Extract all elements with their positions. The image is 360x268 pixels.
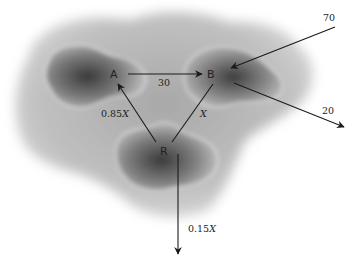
flow-label-r-a-coeff: 0.85 — [101, 108, 122, 119]
node-b-label: B — [207, 68, 215, 81]
flow-label-b-r: X — [199, 108, 208, 119]
flow-label-in-b: 70 — [323, 12, 335, 23]
node-r-label: R — [160, 145, 168, 158]
flow-label-r-out-var: X — [208, 223, 217, 234]
flow-diagram: A B R 30 70 20 0.85X X 0.15X — [0, 0, 360, 268]
flow-label-r-a: 0.85X — [101, 108, 130, 119]
flow-label-a-b: 30 — [158, 77, 170, 88]
flow-label-r-out: 0.15X — [188, 223, 217, 234]
node-a-label: A — [110, 68, 118, 81]
flow-label-out-b: 20 — [322, 105, 334, 116]
flow-label-r-a-var: X — [121, 108, 130, 119]
flow-label-r-out-coeff: 0.15 — [188, 223, 209, 234]
